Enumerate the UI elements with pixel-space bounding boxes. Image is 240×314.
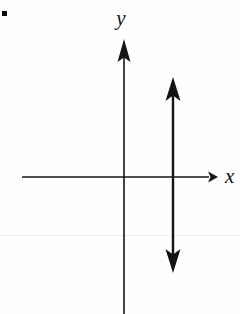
figure-canvas: y x	[0, 0, 240, 314]
x-axis-label: x	[225, 166, 234, 187]
x-axis-arrowhead-icon	[208, 171, 218, 182]
coordinate-plane-svg	[0, 0, 240, 314]
y-axis-label: y	[110, 8, 132, 29]
x-axis-group	[22, 171, 218, 182]
plotted-vertical-line-group	[166, 77, 181, 273]
